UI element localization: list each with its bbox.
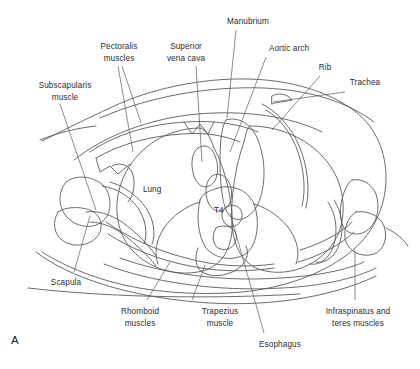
label-pectoralis-muscles: Pectoralismuscles	[88, 41, 150, 64]
label-rhomboid-muscles-line2: muscles	[110, 318, 170, 330]
leader-aortic-arch	[230, 57, 266, 152]
label-trapezius-muscle: Trapeziusmuscle	[192, 306, 248, 329]
rib-right-posterior	[300, 222, 352, 250]
label-pectoralis-muscles-line1: Pectoralis	[101, 42, 138, 51]
label-rib-line1: Rib	[319, 63, 332, 72]
label-rib: Rib	[313, 62, 337, 73]
transverse-process-right	[254, 204, 298, 264]
label-superior-vena-cava: Superiorvena cava	[155, 41, 217, 64]
transverse-process-left	[156, 202, 200, 264]
panel-letter: A	[11, 334, 19, 346]
leader-pectoralis-b	[122, 66, 141, 123]
label-aortic-arch: Aortic arch	[258, 43, 320, 54]
label-rhomboid-muscles: Rhomboidmuscles	[110, 306, 170, 329]
label-manubrium-line1: Manubrium	[227, 17, 269, 26]
inner-label-lung: Lung	[143, 185, 161, 194]
thorax-outer-contour	[42, 79, 386, 294]
label-trachea: Trachea	[341, 77, 389, 88]
label-trapezius-muscle-line2: muscle	[192, 318, 248, 330]
anatomy-outlines-group	[28, 79, 408, 304]
rib-right-posterior-2	[298, 232, 354, 262]
pectoralis-band	[90, 121, 258, 152]
label-infraspinatus-and-teres-muscles-line2: teres muscles	[310, 318, 406, 330]
label-aortic-arch-line1: Aortic arch	[269, 44, 309, 53]
label-esophagus: Esophagus	[249, 339, 311, 350]
figure-thorax-cross-section: LungT4 SubscapularismusclePectoralismusc…	[0, 0, 420, 369]
inner-label-t4-vertebra: T4	[214, 206, 224, 215]
scapula-blade-left	[60, 177, 110, 226]
rib-anterior-right	[262, 104, 308, 208]
label-subscapularis-muscle-line2: muscle	[22, 92, 108, 104]
label-infraspinatus-and-teres-muscles: Infraspinatus andteres muscles	[310, 306, 406, 329]
leader-pectoralis-a	[118, 66, 133, 152]
trachea-lumen	[272, 94, 292, 104]
label-subscapularis-muscle: Subscapularismuscle	[22, 80, 108, 103]
label-pectoralis-muscles-line2: muscles	[88, 53, 150, 65]
vertebral-canal	[213, 226, 236, 250]
label-subscapularis-muscle-line1: Subscapularis	[39, 81, 92, 90]
leader-subscapularis	[60, 104, 96, 210]
lung-right-silhouette	[232, 126, 344, 272]
chest-wall-inner-anterior	[74, 113, 322, 160]
scapula-process-left	[86, 211, 156, 256]
pectoralis-edge-left	[96, 158, 130, 174]
label-superior-vena-cava-line1: Superior	[170, 42, 202, 51]
leader-trapezius	[192, 265, 205, 300]
label-rhomboid-muscles-line1: Rhomboid	[121, 307, 159, 316]
label-scapula: Scapula	[42, 277, 90, 288]
label-superior-vena-cava-line2: vena cava	[155, 53, 217, 65]
label-scapula-line1: Scapula	[51, 278, 81, 287]
aortic-arch-body	[220, 119, 264, 219]
leader-manubrium	[227, 30, 236, 118]
rib-left-posterior-2	[108, 234, 274, 271]
rib-anterior-right-inner	[266, 110, 304, 206]
label-infraspinatus-and-teres-muscles-line1: Infraspinatus and	[326, 307, 391, 316]
label-esophagus-line1: Esophagus	[259, 340, 301, 349]
label-trachea-line1: Trachea	[350, 78, 380, 87]
svc-vessel	[192, 146, 218, 187]
label-manubrium: Manubrium	[216, 16, 280, 27]
anterior-upper-skin	[100, 88, 374, 122]
body-wall-outer-right	[386, 228, 408, 246]
label-trapezius-muscle-line1: Trapezius	[202, 307, 239, 316]
right-scapula-blade	[316, 200, 342, 262]
scapula-spine-left	[55, 208, 102, 246]
lung-left-silhouette	[117, 128, 232, 273]
